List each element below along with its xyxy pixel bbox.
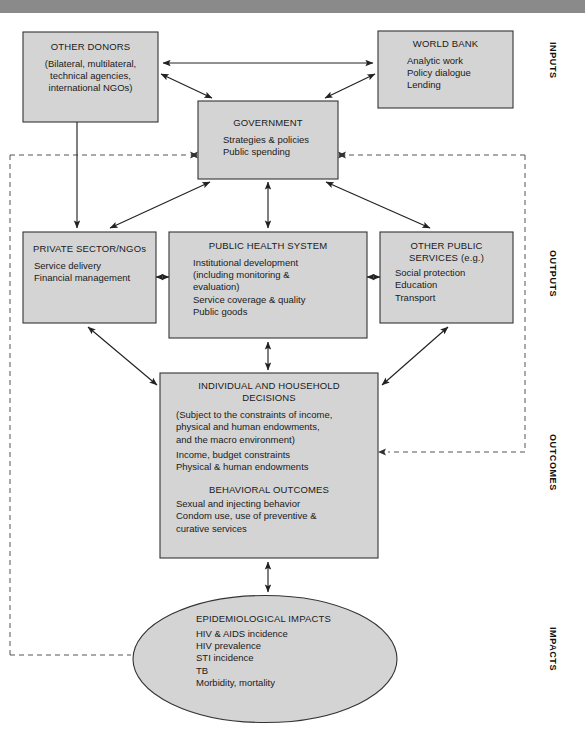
edge-donors-government <box>161 74 212 98</box>
node-government: GOVERNMENT Strategies & policies Public … <box>198 117 338 158</box>
text-line: Service delivery <box>34 260 156 272</box>
node-individual-lines-b: Income, budget constraints Physical & hu… <box>160 449 378 473</box>
text-line: Public goods <box>193 306 367 318</box>
node-private-sector-ngos: PRIVATE SECTOR/NGOs Service delivery Fin… <box>23 243 156 284</box>
text-line: (Subject to the constraints of income, <box>176 409 378 421</box>
node-other-public-title2: SERVICES (e.g.) <box>380 252 513 264</box>
text-line: Analytic work <box>407 55 513 67</box>
text-line: Condom use, use of preventive & <box>176 510 378 522</box>
text-line: Strategies & policies <box>223 134 338 146</box>
node-world-bank-lines: Analytic work Policy dialogue Lending <box>378 55 513 91</box>
text-line: STI incidence <box>196 652 426 664</box>
side-label-impacts: IMPACTS <box>548 627 558 671</box>
node-government-lines: Strategies & policies Public spending <box>198 134 338 158</box>
text-line: Social protection <box>395 267 513 279</box>
side-label-outcomes: OUTCOMES <box>548 434 558 491</box>
text-line: Transport <box>395 292 513 304</box>
text-line: Income, budget constraints <box>176 449 378 461</box>
edge-government-otherpublic <box>326 182 430 228</box>
text-line: physical and human endowments, <box>176 421 378 433</box>
node-impacts-title: EPIDEMIOLOGICAL IMPACTS <box>196 613 426 625</box>
node-public-health-lines: Institutional development (including mon… <box>169 257 367 318</box>
node-individual-lines: (Subject to the constraints of income, p… <box>160 409 378 445</box>
node-private-sector-lines: Service delivery Financial management <box>23 260 156 284</box>
node-government-title: GOVERNMENT <box>198 117 338 129</box>
node-public-health-system: PUBLIC HEALTH SYSTEM Institutional devel… <box>169 240 367 318</box>
text-line: Education <box>395 279 513 291</box>
text-line: curative services <box>176 523 378 535</box>
text-line: TB <box>196 665 426 677</box>
diagram-canvas: OTHER DONORS (Bilateral, multilateral, t… <box>0 0 585 734</box>
text-line: Physical & human endowments <box>176 461 378 473</box>
edge-government-private <box>110 182 210 228</box>
node-public-health-title: PUBLIC HEALTH SYSTEM <box>169 240 367 252</box>
node-world-bank: WORLD BANK Analytic work Policy dialogue… <box>378 38 513 92</box>
node-individual-title: INDIVIDUAL AND HOUSEHOLD <box>160 380 378 392</box>
edge-private-individual <box>88 327 157 385</box>
node-other-donors-lines: (Bilateral, multilateral, technical agen… <box>23 58 158 94</box>
node-other-public-services: OTHER PUBLIC SERVICES (e.g.) Social prot… <box>380 240 513 304</box>
text-line: Public spending <box>223 146 338 158</box>
side-label-outputs: OUTPUTS <box>548 250 558 297</box>
text-line: Morbidity, mortality <box>196 677 426 689</box>
text-line: Institutional development <box>193 257 367 269</box>
text-line: (Bilateral, multilateral, <box>23 58 158 70</box>
text-line: HIV prevalence <box>196 640 426 652</box>
edge-worldbank-government <box>325 74 375 98</box>
side-label-inputs: INPUTS <box>548 42 558 79</box>
text-line: Policy dialogue <box>407 67 513 79</box>
node-individual-household-decisions: INDIVIDUAL AND HOUSEHOLD DECISIONS (Subj… <box>160 380 378 535</box>
text-line: technical agencies, <box>23 70 158 82</box>
node-private-sector-title: PRIVATE SECTOR/NGOs <box>23 243 156 255</box>
node-epidemiological-impacts: EPIDEMIOLOGICAL IMPACTS HIV & AIDS incid… <box>196 613 426 689</box>
text-line: Lending <box>407 79 513 91</box>
text-line: Service coverage & quality <box>193 294 367 306</box>
text-line: international NGOs) <box>23 82 158 94</box>
text-line: Financial management <box>34 272 156 284</box>
node-world-bank-title: WORLD BANK <box>378 38 513 50</box>
node-impacts-lines: HIV & AIDS incidence HIV prevalence STI … <box>196 628 426 689</box>
node-other-public-lines: Social protection Education Transport <box>380 267 513 303</box>
text-line: (including monitoring & <box>193 269 367 281</box>
node-other-donors-title: OTHER DONORS <box>23 41 158 53</box>
spacer <box>160 473 378 484</box>
text-line: and the macro environment) <box>176 434 378 446</box>
edge-otherpublic-individual <box>382 327 448 385</box>
node-other-public-title: OTHER PUBLIC <box>380 240 513 252</box>
text-line: evaluation) <box>193 281 367 293</box>
text-line: Sexual and injecting behavior <box>176 498 378 510</box>
node-individual-subtitle: BEHAVIORAL OUTCOMES <box>160 484 378 496</box>
node-other-donors: OTHER DONORS (Bilateral, multilateral, t… <box>23 41 158 95</box>
text-line: HIV & AIDS incidence <box>196 628 426 640</box>
node-individual-title2: DECISIONS <box>160 392 378 404</box>
node-individual-lines2: Sexual and injecting behavior Condom use… <box>160 498 378 534</box>
